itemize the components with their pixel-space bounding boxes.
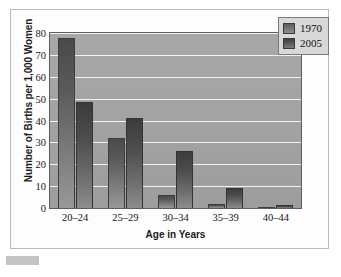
x-tick-label: 40–44	[263, 212, 289, 223]
y-tick-label: 70	[22, 49, 46, 60]
y-tick-label: 0	[22, 203, 46, 214]
bar-group	[58, 33, 93, 208]
bar-2005-35-39	[226, 188, 243, 208]
x-tick-label: 30–34	[162, 212, 188, 223]
legend-label-1970: 1970	[300, 23, 322, 34]
x-tick-label: 25–29	[112, 212, 138, 223]
y-tick-label: 20	[22, 159, 46, 170]
chart-figure: Number of Births per 1,000 Women 0102030…	[0, 0, 341, 277]
axis-baseline	[50, 208, 301, 209]
bar-2005-40-44	[276, 205, 293, 208]
y-tick-label: 60	[22, 71, 46, 82]
y-tick-label: 50	[22, 93, 46, 104]
bar-2005-20-24	[76, 102, 93, 208]
plot-area	[49, 32, 302, 209]
y-tick-label: 30	[22, 137, 46, 148]
bar-group	[258, 33, 293, 208]
y-axis-tick-labels: 01020304050607080	[22, 32, 46, 209]
y-tick-label: 80	[22, 28, 46, 39]
legend-item-2005: 2005	[283, 36, 322, 51]
chart-legend: 1970 2005	[278, 17, 329, 55]
legend-swatch-2005-icon	[283, 38, 295, 49]
x-tick-label: 35–39	[213, 212, 239, 223]
legend-swatch-1970-icon	[283, 23, 295, 34]
y-tick-label: 40	[22, 115, 46, 126]
bar-1970-30-34	[158, 195, 175, 208]
bar-2005-30-34	[176, 151, 193, 208]
bar-group	[208, 33, 243, 208]
bar-group	[108, 33, 143, 208]
bar-group	[158, 33, 193, 208]
x-axis-title: Age in Years	[49, 229, 302, 240]
bar-2005-25-29	[126, 118, 143, 208]
corner-block	[6, 256, 39, 265]
legend-item-1970: 1970	[283, 21, 322, 36]
bar-1970-20-24	[58, 38, 75, 208]
bar-1970-35-39	[208, 204, 225, 208]
bar-1970-25-29	[108, 138, 125, 208]
plot-inner	[50, 33, 301, 208]
bar-1970-40-44	[258, 207, 275, 208]
legend-label-2005: 2005	[300, 38, 322, 49]
x-axis-tick-labels: 20–2425–2930–3435–3940–44	[49, 212, 302, 228]
x-tick-label: 20–24	[62, 212, 88, 223]
y-tick-label: 10	[22, 181, 46, 192]
